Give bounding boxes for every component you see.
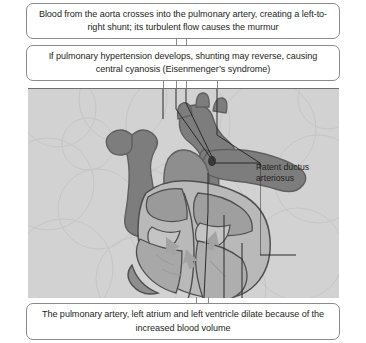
- connector-middle-to-figure-c: [186, 81, 187, 88]
- connector-middle-to-figure-b: [176, 81, 177, 88]
- callout-text-shunt-murmur: Blood from the aorta crosses into the pu…: [36, 8, 330, 34]
- heart-anatomy-figure: [28, 88, 339, 298]
- callout-box-eisenmenger: If pulmonary hypertension develops, shun…: [26, 45, 340, 81]
- callout-box-dilation: The pulmonary artery, left atrium and le…: [26, 303, 340, 340]
- pda-label-line-2: arteriosus: [256, 173, 309, 184]
- left-carotid-branch: [196, 93, 209, 107]
- pda-label: Patent ductus arteriosus: [256, 162, 309, 185]
- callout-box-shunt-murmur: Blood from the aorta crosses into the pu…: [26, 3, 340, 39]
- connector-middle-to-figure-a: [163, 81, 164, 88]
- left-subclavian-branch: [213, 98, 227, 113]
- pda-label-line-1: Patent ductus: [256, 162, 309, 173]
- connector-middle-to-figure-d: [217, 81, 218, 88]
- svc-left-branch: [106, 130, 132, 155]
- callout-text-eisenmenger: If pulmonary hypertension develops, shun…: [36, 50, 330, 76]
- callout-text-dilation: The pulmonary artery, left atrium and le…: [36, 308, 330, 334]
